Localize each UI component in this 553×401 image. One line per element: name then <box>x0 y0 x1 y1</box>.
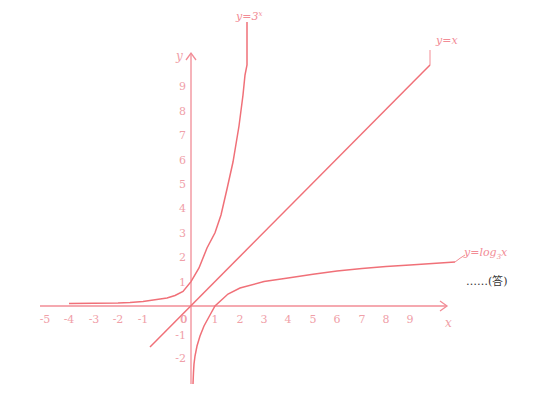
y-tick: 3 <box>179 227 186 240</box>
answer-mark: ……(答) <box>466 272 508 288</box>
exp-curve-label: y=3x <box>235 10 262 23</box>
y-tick: 1 <box>179 276 186 289</box>
x-tick: 9 <box>407 313 414 326</box>
axes <box>40 53 447 384</box>
x-tick: 7 <box>359 313 366 326</box>
origin-label: 0 <box>180 313 187 326</box>
identity-line-label: y=x <box>435 34 458 47</box>
identity-line <box>150 65 430 347</box>
exp-curve <box>69 22 247 304</box>
log-curve <box>193 262 455 384</box>
x-tick: 1 <box>212 313 219 326</box>
x-tick-labels: -5 -4 -3 -2 -1 0 1 2 3 4 5 6 7 8 9 <box>40 313 414 326</box>
y-tick: 9 <box>179 80 186 93</box>
y-tick: 8 <box>179 105 186 118</box>
log-curve-label: y=log3x <box>463 246 508 261</box>
x-tick: -5 <box>40 313 51 326</box>
x-tick: -1 <box>138 313 149 326</box>
x-tick: 8 <box>383 313 390 326</box>
x-tick: -3 <box>89 313 100 326</box>
x-tick: -2 <box>113 313 124 326</box>
x-tick: -4 <box>64 313 75 326</box>
y-tick: 2 <box>179 251 186 264</box>
function-graph: x y -5 -4 -3 -2 -1 0 1 2 3 4 5 6 7 8 9 -… <box>0 0 553 401</box>
y-axis-label: y <box>175 49 183 63</box>
y-tick: -2 <box>175 352 186 365</box>
x-tick: 5 <box>310 313 317 326</box>
y-tick: 4 <box>179 202 186 215</box>
y-tick: -1 <box>175 329 186 342</box>
y-tick: 5 <box>179 178 186 191</box>
y-tick: 6 <box>179 154 186 167</box>
x-tick: 6 <box>334 313 341 326</box>
x-tick: 2 <box>237 313 244 326</box>
x-tick: 3 <box>261 313 268 326</box>
x-tick: 4 <box>285 313 292 326</box>
x-axis-label: x <box>445 316 452 330</box>
y-tick: 7 <box>179 129 186 142</box>
